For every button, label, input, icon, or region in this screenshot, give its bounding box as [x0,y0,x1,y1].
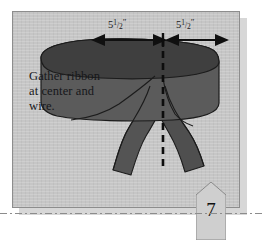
caption-line-2: at center and [29,84,129,99]
dimension-left-unit: ″ [123,17,127,27]
dimension-label-left: 51/2″ [108,19,127,30]
caption-line-3: wire. [29,99,129,114]
page-number: 7 [196,200,226,220]
dimension-right-unit: ″ [191,17,195,27]
dimension-right-numerator: 1 [181,18,185,27]
illustration-panel: 51/2″ 51/2″ Gather ribbon at center and … [12,11,240,208]
instruction-caption: Gather ribbon at center and wire. [29,69,129,114]
dimension-left-numerator: 1 [113,18,117,27]
dimension-label-right: 51/2″ [176,19,195,30]
cut-line [0,212,262,214]
page-number-banner: 7 [196,182,226,240]
caption-line-1: Gather ribbon [29,69,129,84]
figure-page: 51/2″ 51/2″ Gather ribbon at center and … [0,0,262,240]
